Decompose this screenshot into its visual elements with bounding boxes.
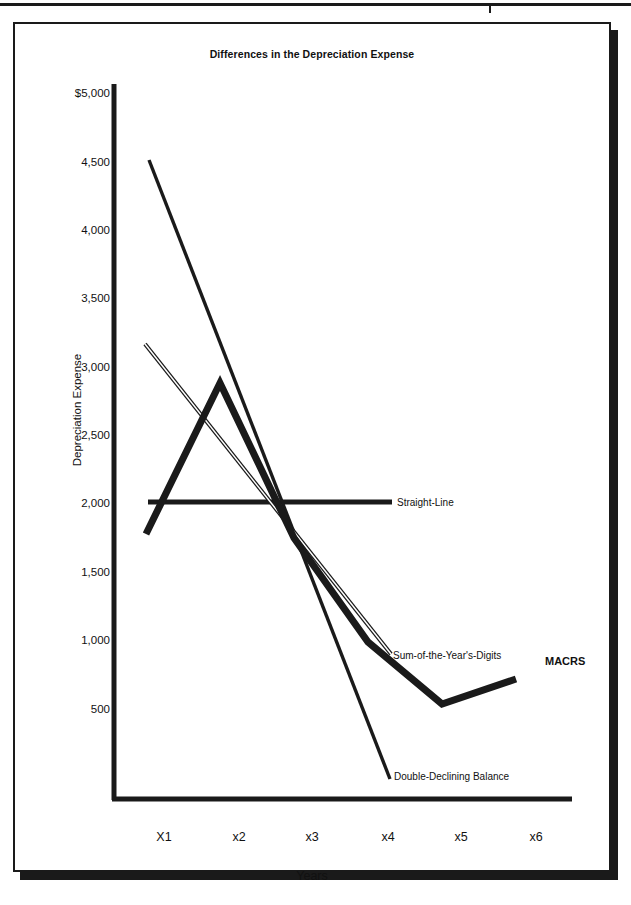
series-label-sum-of-the-years-digits: Sum-of-the-Year's-Digits <box>393 650 501 661</box>
figure-frame: Differences in the Depreciation Expense … <box>13 22 611 872</box>
series-label-straight-line: Straight-Line <box>397 497 454 508</box>
plot-area <box>15 24 613 874</box>
page-top-rule-tick <box>489 3 491 13</box>
series-line-double-declining-balance <box>149 160 390 779</box>
series-label-macrs: MACRS <box>545 655 585 667</box>
series-label-double-declining-balance: Double-Declining Balance <box>394 771 509 782</box>
series-line-sum-of-the-years-digits-inner <box>145 344 391 654</box>
page-top-rule <box>0 3 631 6</box>
